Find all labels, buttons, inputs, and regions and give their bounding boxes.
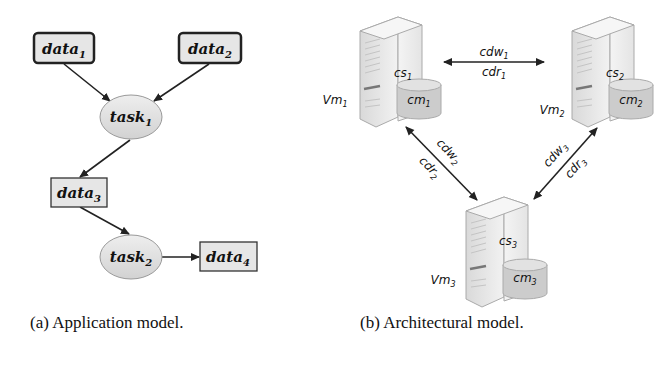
svg-text:cdr2: cdr2 <box>415 154 443 183</box>
svg-text:cdw1: cdw1 <box>479 45 508 61</box>
svg-text:cdw2: cdw2 <box>432 136 464 168</box>
node-data1: data1 <box>34 33 94 63</box>
edge-data1-task1 <box>64 64 110 101</box>
vm2: cs2 cm2 Vm2 <box>540 17 654 127</box>
link-vm2-vm3: cdw3 cdr3 <box>534 128 597 199</box>
link-vm1-vm3: cdw2 cdr2 <box>406 127 477 200</box>
node-task2: task2 <box>100 235 162 279</box>
svg-text:cdr3: cdr3 <box>562 154 590 183</box>
caption-architectural-model: (b) Architectural model. <box>360 313 524 333</box>
node-data4: data4 <box>200 242 257 271</box>
node-data2: data2 <box>179 33 241 63</box>
application-model: data1 data2 task1 data3 task2 data4 <box>34 33 257 279</box>
architectural-model: cs1 cm1 Vm1 cs2 cm2 Vm2 cs3 cm3 Vm3 cdw1… <box>323 17 654 307</box>
figure-canvas: data1 data2 task1 data3 task2 data4 <box>0 0 671 367</box>
svg-text:Vm3: Vm3 <box>431 273 456 289</box>
node-data3: data3 <box>51 178 107 207</box>
caption-application-model: (a) Application model. <box>30 313 183 333</box>
link-vm1-vm2: cdw1 cdr1 <box>444 45 544 81</box>
node-task1: task1 <box>100 95 162 139</box>
edge-data2-task1 <box>154 64 209 101</box>
edge-task1-data3 <box>80 140 130 177</box>
svg-text:Vm1: Vm1 <box>323 93 348 109</box>
svg-text:Vm2: Vm2 <box>540 103 565 119</box>
vm3: cs3 cm3 Vm3 <box>431 197 548 307</box>
svg-text:cdr1: cdr1 <box>482 65 506 81</box>
vm1: cs1 cm1 Vm1 <box>323 17 442 127</box>
edge-data3-task2 <box>80 207 129 234</box>
